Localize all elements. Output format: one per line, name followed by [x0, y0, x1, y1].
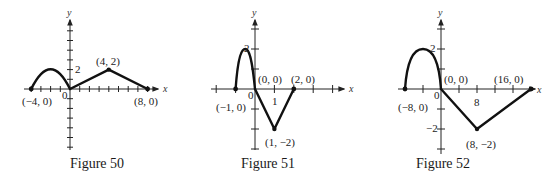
x-axis-label: x [536, 84, 542, 95]
y-tick-label: 2 [244, 42, 250, 54]
point-label: (8, −2) [466, 138, 496, 151]
origin-label: 0 [434, 89, 440, 101]
point-label: (−4, 0) [22, 95, 52, 108]
arc-curve [236, 49, 255, 89]
point-label: (4, 2) [96, 55, 120, 68]
point-label: (0, 0) [258, 73, 282, 86]
figure-caption: Figure 50 [70, 156, 124, 171]
x-axis-label: x [348, 83, 354, 94]
figure-50: y x 2 0 (−4, 0) (4, 2) (8, 0) Figure 50 [22, 7, 168, 171]
point-marker [475, 127, 479, 131]
point-marker [29, 87, 34, 92]
point-marker [529, 87, 534, 92]
y-tick-label: 2 [75, 63, 81, 75]
origin-label: 0 [62, 89, 68, 101]
figure-caption: Figure 52 [416, 156, 470, 171]
point-label: (16, 0) [494, 73, 524, 86]
point-marker [272, 127, 276, 131]
point-label: (8, 0) [134, 95, 158, 108]
y-axis-label: y [251, 7, 257, 18]
arc-curve [405, 49, 441, 89]
y-axis-label: y [66, 7, 72, 18]
origin-label: 0 [248, 89, 254, 101]
y-tick-label: −2 [426, 122, 438, 134]
figure-caption: Figure 51 [241, 156, 295, 171]
point-marker [107, 67, 111, 71]
x-axis-label: x [162, 83, 168, 94]
point-label: (1, −2) [265, 136, 295, 149]
x-tick-label: 8 [474, 96, 480, 108]
x-tick-label: 1 [272, 95, 278, 107]
point-marker [403, 87, 408, 92]
y-axis-label: y [437, 7, 443, 18]
figure-52: y x 2 −2 8 0 (−8, 0) (0, 0) (8, −2) (16,… [398, 7, 542, 171]
point-marker [145, 87, 150, 92]
piecewise-line [441, 89, 531, 129]
point-marker [233, 87, 238, 92]
figures-canvas: y x 2 0 (−4, 0) (4, 2) (8, 0) Figure 50 [0, 0, 558, 184]
y-tick-label: 2 [430, 42, 436, 54]
point-marker [291, 87, 296, 92]
point-label: (0, 0) [444, 73, 468, 86]
point-label: (2, 0) [291, 73, 315, 86]
point-label: (−1, 0) [216, 101, 246, 114]
point-label: (−8, 0) [398, 101, 428, 114]
figure-51: y x 2 1 0 (−1, 0) (0, 0) (1, −2) (2, 0) … [211, 7, 354, 171]
